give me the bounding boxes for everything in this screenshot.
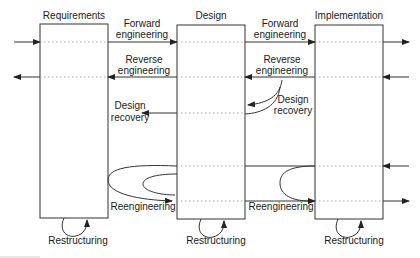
design-title: Design: [195, 10, 226, 21]
design-recovery-label-1a: Design: [114, 100, 145, 111]
implementation-box: [315, 25, 383, 219]
reengineering-label-2: Reengineering: [248, 201, 313, 212]
reengineering-outer-loop-1: [108, 166, 177, 201]
forward-label-2a: Forward: [262, 18, 299, 29]
implementation-title: Implementation: [315, 10, 383, 21]
reengineering-loop-2: [280, 166, 315, 201]
requirements-box: [40, 24, 108, 218]
restructuring-label-requirements: Restructuring: [48, 235, 107, 246]
restructuring-label-design: Restructuring: [186, 235, 245, 246]
design-recovery-label-2a: Design: [277, 94, 308, 105]
restructuring-label-implementation: Restructuring: [324, 235, 383, 246]
restructuring-loop-requirements: [62, 218, 87, 236]
design-recovery-label-1b: recovery: [111, 112, 149, 123]
forward-label-2b: engineering: [254, 29, 306, 40]
forward-label-1b: engineering: [116, 29, 168, 40]
reverse-label-1a: Reverse: [125, 54, 163, 65]
reverse-label-1b: engineering: [118, 65, 170, 76]
requirements-title: Requirements: [43, 10, 105, 21]
reengineering-diagram: Requirements Design Implementation Forwa…: [0, 0, 420, 258]
design-recovery-label-2b: recovery: [274, 105, 312, 116]
forward-label-1a: Forward: [124, 18, 161, 29]
reverse-label-2a: Reverse: [263, 54, 301, 65]
reengineering-label-1: Reengineering: [110, 201, 175, 212]
reengineering-inner-loop-1: [143, 174, 177, 195]
design-box: [177, 25, 245, 219]
reverse-label-2b: engineering: [256, 65, 308, 76]
